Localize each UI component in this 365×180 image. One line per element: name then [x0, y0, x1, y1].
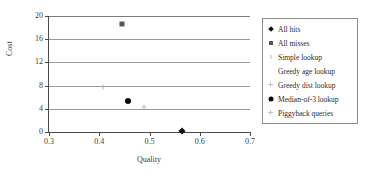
x-axis-tick-label: 0.6 [195, 138, 205, 146]
plot-area: 0481216200.30.40.50.60.7 [48, 16, 250, 133]
data-point [119, 21, 124, 26]
y-axis-tick [45, 16, 49, 17]
legend-item-label: Simple lookup [278, 53, 322, 62]
x-axis-tick-label: 0.4 [94, 138, 104, 146]
circle-marker [266, 94, 276, 104]
x-axis-title: Quality [48, 156, 250, 164]
legend-item-label: Median-of-3 lookup [278, 95, 339, 104]
y-axis-tick-label: 20 [35, 12, 43, 20]
square-marker [266, 38, 276, 48]
y-axis-tick-label: 12 [35, 58, 43, 66]
plus-marker [266, 80, 276, 90]
y-axis-tick-label: 0 [39, 128, 43, 136]
legend-item-label: Greedy age lookup [278, 67, 335, 76]
legend-item: Median-of-3 lookup [266, 92, 355, 106]
gridline [49, 16, 250, 17]
chart-legend: All hitsAll missesSimple lookupGreedy ag… [262, 18, 358, 124]
y-axis-tick [45, 39, 49, 40]
legend-item: All misses [266, 36, 355, 50]
y-axis-tick-label: 8 [39, 82, 43, 90]
x-axis-tick-label: 0.5 [145, 138, 155, 146]
x-axis-tick [200, 132, 201, 136]
legend-item-label: All misses [278, 39, 309, 48]
legend-item-label: Piggyback queries [278, 109, 333, 118]
diamond-marker [266, 24, 276, 34]
legend-item: Piggyback queries [266, 106, 355, 120]
data-point [103, 84, 104, 89]
legend-item: Greedy age lookup [266, 64, 355, 78]
y-axis-title: Cost [6, 41, 14, 56]
legend-item: All hits [266, 22, 355, 36]
gridline [49, 86, 250, 87]
legend-item-label: Greedy dist lookup [278, 81, 336, 90]
legend-item: Greedy dist lookup [266, 78, 355, 92]
gridline [49, 62, 250, 63]
y-axis-tick-label: 4 [39, 105, 43, 113]
y-axis-tick-label: 16 [35, 35, 43, 43]
gridline [49, 39, 250, 40]
x-axis-tick [250, 132, 251, 136]
x-axis-tick [99, 132, 100, 136]
x-axis-tick [150, 132, 151, 136]
x-axis-tick-label: 0.3 [44, 138, 54, 146]
blank-marker [266, 66, 276, 76]
legend-item: Simple lookup [266, 50, 355, 64]
data-point [142, 105, 147, 110]
y-axis-tick [45, 86, 49, 87]
tick-marker [266, 52, 276, 62]
gridline [49, 109, 250, 110]
plus-marker [266, 108, 276, 118]
x-axis-tick [49, 132, 50, 136]
y-axis-tick [45, 62, 49, 63]
x-axis-tick-label: 0.7 [245, 138, 255, 146]
y-axis-tick [45, 109, 49, 110]
data-point [179, 128, 186, 135]
data-point [125, 98, 131, 104]
legend-item-label: All hits [278, 25, 300, 34]
chart-figure: Cost 0481216200.30.40.50.60.7 Quality Al… [0, 0, 365, 180]
